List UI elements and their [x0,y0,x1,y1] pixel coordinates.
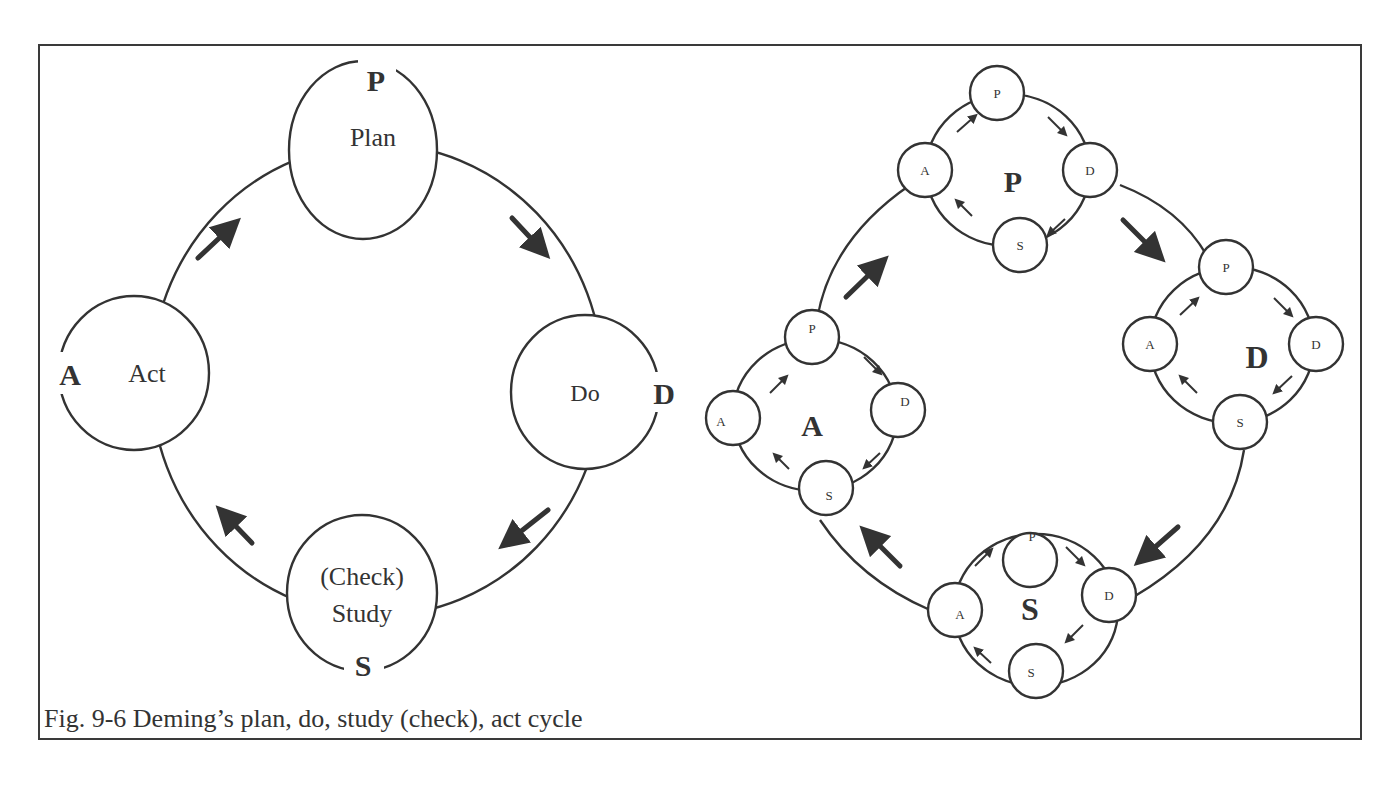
figure-caption: Fig. 9-6 Deming’s plan, do, study (check… [44,704,583,734]
study-node: S (Check) Study [287,515,437,682]
study-letter: S [355,649,372,682]
right-cycle: P D S A P P D S A D [706,66,1343,698]
a-cluster-d-label: D [900,394,909,409]
d-cluster-s-label: S [1236,415,1243,430]
a-cluster-letter: A [801,409,823,442]
a-cluster-s-label: S [825,488,832,503]
d-cluster-d-label: D [1311,337,1320,352]
arrow-do-to-study [510,510,548,540]
p-cluster-p-label: P [993,86,1000,101]
a-cluster-d-node [871,383,925,437]
a-cluster-p-node [785,310,839,364]
d-cluster: P D S A D [1123,240,1343,449]
cycle-arrows [198,218,548,543]
plan-label: Plan [350,123,396,152]
pdsa-diagram: P Plan D Do A Act S (Check) Study [0,0,1398,785]
arrow-study-to-act [226,516,252,543]
left-cycle: P Plan D Do A Act S (Check) Study [50,55,678,682]
arrow-s-to-a [870,536,900,566]
p-cluster-d-label: D [1085,163,1094,178]
plan-letter: P [367,64,385,97]
plan-node: P Plan [289,55,437,239]
arrow-plan-to-do [512,218,540,248]
p-cluster-a-label: A [920,163,930,178]
study-label-check: (Check) [320,562,404,591]
a-cluster-a-node [706,391,760,445]
arc-p-to-d [1120,185,1212,265]
a-cluster-a-label: A [716,414,726,429]
a-cluster: P D S A A [706,310,925,515]
s-cluster-s-node [1009,644,1063,698]
p-cluster: P D S A P [898,66,1117,272]
s-cluster-p-label: P [1028,529,1035,544]
d-cluster-letter: D [1245,339,1268,375]
arc-s-to-a [820,520,930,610]
arrow-d-to-s [1145,527,1178,556]
act-node: A Act [50,296,209,450]
arc-d-to-s [1135,450,1244,596]
d-cluster-a-label: A [1145,337,1155,352]
p-cluster-letter: P [1004,165,1022,198]
s-cluster-d-label: D [1104,588,1113,603]
s-cluster-s-label: S [1027,665,1034,680]
do-node: D Do [511,315,678,469]
s-cluster: P D S A S [928,529,1136,698]
a-cluster-p-label: P [808,321,815,336]
do-label: Do [570,380,599,406]
arc-a-to-p [817,185,910,320]
d-cluster-p-label: P [1222,260,1229,275]
arrow-a-to-p [846,266,878,297]
do-letter: D [653,377,675,410]
arrow-act-to-plan [198,228,230,258]
arrow-p-to-d [1123,220,1155,252]
act-letter: A [59,358,81,391]
s-cluster-letter: S [1021,591,1039,627]
act-label: Act [128,359,166,388]
s-cluster-a-label: A [955,607,965,622]
study-label-study: Study [332,599,393,628]
p-cluster-s-label: S [1016,238,1023,253]
